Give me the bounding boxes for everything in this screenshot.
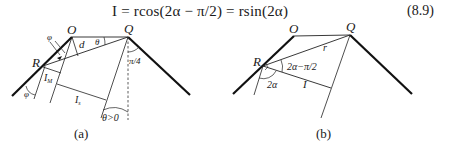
theta-arc (104, 37, 105, 45)
right-surface-line (128, 37, 190, 95)
label-theta-gt-0: θ>0 (102, 112, 119, 123)
label-pi-over-4: π/4 (129, 56, 141, 66)
line-d (72, 37, 78, 56)
pi4-arc (128, 47, 139, 52)
angle-arc-2a-pi2 (281, 60, 283, 72)
right-surface-line-b (350, 35, 412, 94)
figure-diagrams: O Q R d θ φ φ IM Is π/4 θ>0 (a) O Q R r … (0, 0, 449, 143)
label-O-b: O (289, 21, 299, 36)
label-theta: θ (95, 37, 100, 47)
label-Q-b: Q (346, 19, 356, 34)
label-d: d (79, 38, 85, 50)
caption-a: (a) (74, 126, 88, 141)
line-OQ-b (294, 35, 350, 36)
figure-b: O Q R r 2α−π/2 2α I (b) (233, 19, 412, 141)
line-Is (57, 84, 106, 100)
label-2a: 2α (267, 79, 278, 90)
label-phi-bottom: φ (24, 89, 29, 99)
caption-b: (b) (316, 126, 331, 141)
label-Q: Q (124, 21, 134, 36)
left-surface-line-b (233, 36, 294, 94)
label-O: O (67, 22, 77, 37)
label-R: R (31, 55, 40, 70)
label-r: r (323, 42, 327, 53)
label-IM: IM (43, 72, 53, 84)
label-phi-top: φ (47, 32, 52, 42)
left-surface-line (12, 37, 72, 96)
label-Is: Is (74, 94, 81, 106)
label-R-b: R (252, 54, 261, 69)
ray-from-Q (101, 37, 128, 118)
angle-arc-2a (259, 71, 276, 79)
label-2a-minus-pi2: 2α−π/2 (287, 61, 317, 72)
figure-a: O Q R d θ φ φ IM Is π/4 θ>0 (a) (12, 21, 190, 141)
